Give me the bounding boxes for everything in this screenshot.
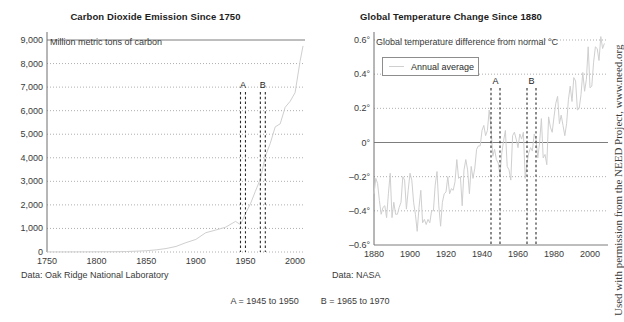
co2-ytick: 3,000 — [5, 176, 43, 186]
temperature-xtick: 1880 — [364, 249, 384, 259]
co2-xtick: 1850 — [136, 256, 156, 266]
co2-ytick: 4,000 — [5, 153, 43, 163]
temperature-xtick: 1960 — [508, 249, 528, 259]
temperature-source-label: Data: NASA — [332, 270, 381, 280]
legend-label: Annual average — [411, 62, 474, 72]
permission-note: Used with permission from the NEED Proje… — [612, 44, 624, 316]
co2-xtick: 1750 — [37, 256, 57, 266]
co2-xtick: 1900 — [186, 256, 206, 266]
band-caption: A = 1945 to 1950B = 1965 to 1970 — [230, 296, 389, 306]
co2-band-label-b: B — [260, 80, 266, 90]
temperature-band-label-b: B — [528, 76, 534, 86]
co2-ytick: 2,000 — [5, 200, 43, 210]
temperature-xtick: 1920 — [436, 249, 456, 259]
temperature-xtick: 1940 — [472, 249, 492, 259]
band-caption-a: A = 1945 to 1950 — [230, 296, 298, 306]
temperature-xtick: 1900 — [400, 249, 420, 259]
temperature-ytick: 0.2° — [332, 103, 370, 113]
temperature-xtick: 1980 — [544, 249, 564, 259]
co2-xtick: 1950 — [235, 256, 255, 266]
temperature-ytick: 0.6° — [332, 35, 370, 45]
legend-line-swatch — [389, 66, 404, 67]
temperature-ytick: 0.4° — [332, 69, 370, 79]
co2-band-label-a: A — [240, 80, 246, 90]
co2-ytick: 1,000 — [5, 223, 43, 233]
chart-title-co2: Carbon Dioxide Emission Since 1750 — [0, 11, 311, 22]
co2-ytick: 9,000 — [5, 35, 43, 45]
temperature-xtick: 2000 — [580, 249, 600, 259]
co2-ytick: 6,000 — [5, 106, 43, 116]
co2-ytick: 5,000 — [5, 129, 43, 139]
co2-xtick: 2000 — [285, 256, 305, 266]
temperature-band-label-a: A — [492, 76, 498, 86]
temperature-axis-note: Global temperature difference from norma… — [376, 37, 558, 47]
temperature-ytick: 0° — [332, 138, 370, 148]
temperature-ytick: –0.4° — [332, 206, 370, 216]
co2-axis-note: Million metric tons of carbon — [50, 37, 162, 47]
co2-ytick: 7,000 — [5, 82, 43, 92]
temperature-ytick: –0.2° — [332, 172, 370, 182]
band-caption-b: B = 1965 to 1970 — [321, 296, 390, 306]
co2-xtick: 1800 — [87, 256, 107, 266]
chart-title-temperature: Global Temperature Change Since 1880 — [311, 11, 591, 22]
temperature-legend: Annual average — [382, 57, 479, 76]
co2-ytick: 8,000 — [5, 59, 43, 69]
co2-source-label: Data: Oak Ridge National Laboratory — [21, 270, 169, 280]
